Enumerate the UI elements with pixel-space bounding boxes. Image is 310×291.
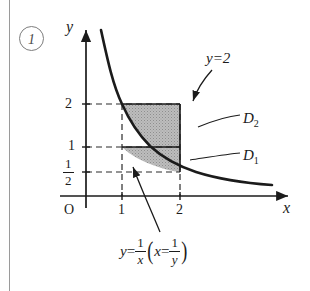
region-d2-subscript: 2	[254, 118, 259, 129]
y-equals-2-leader-arrow	[193, 70, 212, 101]
equation-lhs-var: y	[120, 243, 127, 260]
frac2-numerator: 1	[169, 236, 180, 250]
d1-leader-line	[190, 153, 240, 160]
region-d2-label: D2	[243, 110, 259, 129]
equation-equals: =	[127, 243, 135, 260]
formula-leader-arrow	[133, 167, 160, 232]
line-y-equals-2-label: y=2	[206, 50, 230, 67]
frac1-denominator: x	[135, 253, 146, 267]
origin-label: O	[64, 202, 74, 218]
curve-equation-label: y = 1 x ( x = 1 y )	[120, 236, 189, 266]
y-tick-label-one-half: 1 2	[63, 157, 74, 187]
x-tick-label-1: 1	[118, 202, 125, 218]
equation-inner-equals: =	[161, 243, 169, 260]
region-d1-label: D1	[243, 147, 259, 166]
equation-inner-var: x	[154, 243, 161, 260]
region-d1-subscript: 1	[254, 155, 259, 166]
paren-close: )	[181, 241, 187, 262]
equation-fraction-one-over-x: 1 x	[135, 236, 146, 266]
y-axis-label: y	[66, 18, 73, 36]
one-half-numerator: 1	[63, 157, 74, 171]
figure-container: 1	[0, 0, 310, 291]
region-d1-letter: D	[243, 147, 254, 163]
y-tick-label-2: 2	[65, 96, 72, 112]
frac1-numerator: 1	[135, 236, 146, 250]
x-tick-label-2: 2	[176, 202, 183, 218]
one-half-denominator: 2	[63, 174, 74, 188]
paren-open: (	[147, 241, 153, 262]
x-axis-label: x	[283, 199, 290, 217]
equation-fraction-one-over-y: 1 y	[169, 236, 180, 266]
d2-leader-line	[198, 115, 240, 127]
y-tick-label-1: 1	[68, 138, 75, 154]
region-d2-letter: D	[243, 110, 254, 126]
region-d1-shade-body	[122, 147, 180, 172]
frac2-denominator: y	[169, 253, 180, 267]
